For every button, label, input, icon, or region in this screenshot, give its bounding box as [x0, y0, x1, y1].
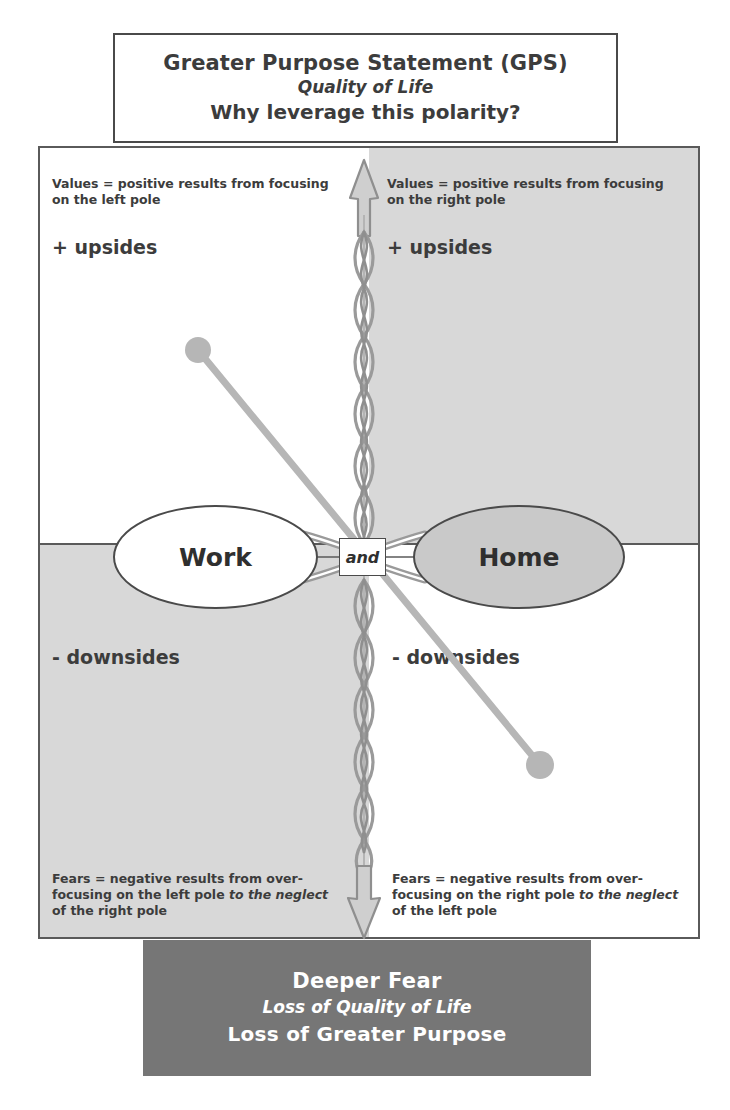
gps-heading: Greater Purpose Statement (GPS) — [163, 52, 567, 76]
lower-right-note-line2: focusing on the right pole to the neglec… — [392, 887, 692, 903]
upper-left-note-line2: on the left pole — [52, 192, 332, 208]
left-pole-ellipse[interactable]: Work — [113, 505, 318, 609]
lower-right-note-line1: Fears = negative results from over- — [392, 871, 692, 887]
gps-question: Why leverage this polarity? — [210, 100, 520, 124]
lower-left-label: - downsides — [52, 646, 180, 668]
and-connector-box[interactable]: and — [339, 538, 386, 576]
lower-left-note: Fears = negative results from over- focu… — [52, 871, 352, 919]
deeper-fear-box: Deeper Fear Loss of Quality of Life Loss… — [143, 940, 591, 1076]
gps-subtitle: Quality of Life — [298, 76, 433, 98]
deeper-fear-heading: Deeper Fear — [292, 969, 442, 994]
lower-right-note-line2-italic: to the neglect — [579, 887, 678, 902]
upper-right-note-line1: Values = positive results from focusing — [387, 176, 677, 192]
lower-left-note-line3: of the right pole — [52, 903, 352, 919]
left-pole-label: Work — [179, 543, 252, 572]
lower-left-note-line2-italic: to the neglect — [229, 887, 328, 902]
deeper-fear-statement: Loss of Greater Purpose — [227, 1022, 506, 1047]
upper-left-label: + upsides — [52, 236, 157, 258]
deeper-fear-subtitle: Loss of Quality of Life — [262, 996, 471, 1019]
upper-right-label: + upsides — [387, 236, 492, 258]
upper-right-note: Values = positive results from focusing … — [387, 176, 677, 208]
lower-left-note-line2-plain: focusing on the left pole — [52, 887, 229, 902]
lower-right-note: Fears = negative results from over- focu… — [392, 871, 692, 919]
lower-right-note-line3: of the left pole — [392, 903, 692, 919]
polarity-map-diagram: Greater Purpose Statement (GPS) Quality … — [0, 0, 730, 1110]
greater-purpose-statement-box: Greater Purpose Statement (GPS) Quality … — [113, 33, 618, 143]
lower-left-note-line1: Fears = negative results from over- — [52, 871, 352, 887]
upper-right-note-line2: on the right pole — [387, 192, 677, 208]
right-pole-label: Home — [478, 543, 559, 572]
and-connector-label: and — [346, 548, 380, 567]
right-pole-ellipse[interactable]: Home — [413, 505, 625, 609]
upper-left-note-line1: Values = positive results from focusing — [52, 176, 332, 192]
lower-right-label: - downsides — [392, 646, 520, 668]
lower-right-note-line2-plain: focusing on the right pole — [392, 887, 579, 902]
upper-left-note: Values = positive results from focusing … — [52, 176, 332, 208]
lower-left-note-line2: focusing on the left pole to the neglect — [52, 887, 352, 903]
